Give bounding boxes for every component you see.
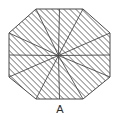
figure-caption-label: A xyxy=(0,103,120,116)
spoke-to-left-edge-midpoint xyxy=(9,55,59,56)
hatched-octagon-diagram xyxy=(0,0,120,104)
figure-panel: A xyxy=(0,0,120,121)
spoke-to-right-edge-midpoint xyxy=(59,55,111,56)
